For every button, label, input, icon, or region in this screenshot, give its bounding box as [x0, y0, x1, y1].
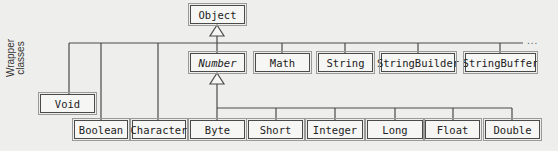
class-short: Short [248, 120, 303, 139]
inheritance-arrow-object [210, 25, 224, 36]
class-integer: Integer [307, 120, 363, 139]
class-double: Double [485, 120, 540, 139]
inheritance-arrow-number [210, 73, 224, 84]
class-string: String [318, 53, 373, 72]
more-classes-ellipsis: ... [527, 35, 538, 46]
class-stringbuilder: StringBuilder [381, 53, 455, 72]
class-byte: Byte [190, 120, 245, 139]
wrapper-label-line2: classes [16, 28, 26, 88]
class-stringbuffer: StringBuffer [465, 53, 536, 72]
class-float: Float [425, 120, 480, 139]
class-character: Character [132, 120, 186, 139]
class-object: Object [190, 5, 245, 24]
class-void: Void [40, 94, 95, 113]
class-number: Number [190, 53, 245, 72]
wrapper-classes-label: Wrapper classes [6, 28, 36, 88]
class-long: Long [367, 120, 423, 139]
class-boolean: Boolean [74, 120, 128, 139]
class-math: Math [255, 53, 310, 72]
